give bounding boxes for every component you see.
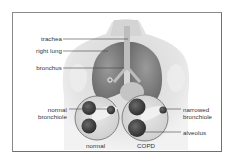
inset-normal <box>75 96 119 140</box>
lungs-illustration <box>0 0 232 168</box>
caption-normal: normal <box>86 142 105 149</box>
inset-copd <box>122 95 168 141</box>
label-trachea: trachea <box>41 35 62 42</box>
caption-copd: COPD <box>137 142 155 149</box>
label-normal-bronchiole: normal bronchiole <box>38 106 67 120</box>
label-bronchus: bronchus <box>36 64 62 71</box>
label-alveolus: alveolus <box>183 129 206 136</box>
label-right-lung: right lung <box>36 47 62 54</box>
label-narrowed-bronchiole: narrowed bronchiole <box>183 106 212 120</box>
